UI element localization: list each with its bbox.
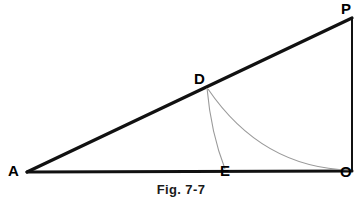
geometry-canvas <box>0 0 362 205</box>
vertex-label-o: O <box>340 164 352 179</box>
vertex-label-d: D <box>194 71 205 86</box>
vertex-label-e: E <box>220 163 230 178</box>
figure-caption: Fig. 7-7 <box>0 182 362 198</box>
segment-hypotenuse-AP <box>27 18 352 172</box>
vertex-label-p: P <box>341 1 351 16</box>
arc-D-to-O <box>208 89 350 170</box>
segment-base-AO <box>27 171 352 172</box>
figure-container: A P O D E Fig. 7-7 <box>0 0 362 205</box>
vertex-label-a: A <box>8 163 19 178</box>
